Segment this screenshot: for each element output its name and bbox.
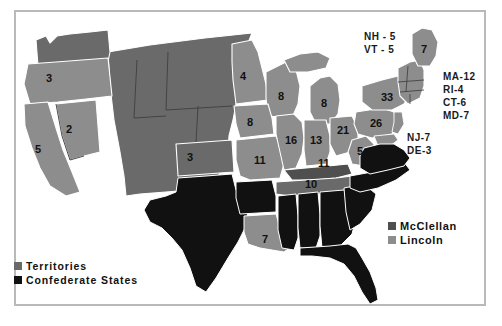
- label-maryland: MD-7: [443, 109, 469, 122]
- lincoln-swatch: [388, 236, 396, 244]
- state-votes-maine: 7: [421, 44, 427, 55]
- territories-label: Territories: [26, 260, 87, 272]
- label-delaware: DE-3: [407, 144, 432, 157]
- status-legend: Territories Confederate States: [14, 260, 138, 288]
- state-votes-illinois: 16: [285, 135, 297, 146]
- state-iowa: [234, 104, 274, 138]
- mcclellan-label: McClellan: [400, 220, 457, 232]
- state-alabama: [298, 192, 320, 248]
- state-votes-ohio: 21: [337, 125, 349, 136]
- state-votes-minnesota: 4: [240, 71, 246, 82]
- state-votes-indiana: 13: [310, 135, 322, 146]
- state-mississippi: [278, 194, 298, 250]
- state-florida: [300, 244, 378, 304]
- state-votes-california: 5: [35, 144, 41, 155]
- state-votes-oregon: 3: [46, 73, 52, 84]
- label-rhode-island: RI-4: [443, 83, 464, 96]
- state-arkansas: [236, 180, 276, 214]
- state-votes-west-virginia: 5: [357, 146, 363, 157]
- legend-item-confederate-states: Confederate States: [14, 274, 138, 286]
- confederate-swatch: [14, 276, 22, 284]
- state-votes-louisiana: 7: [262, 234, 268, 245]
- label-vermont: VT - 5: [364, 43, 394, 56]
- state-votes-michigan: 8: [321, 98, 327, 109]
- electoral-map-figure: 5 3 2 3 4 8 8 8 11 16 13 21 5 11 10 26 3…: [0, 0, 502, 326]
- state-votes-iowa: 8: [247, 117, 253, 128]
- legend-item-mcclellan: McClellan: [388, 220, 457, 232]
- label-new-hampshire: NH - 5: [364, 30, 396, 43]
- state-votes-kansas: 3: [187, 152, 193, 163]
- state-oregon: [24, 58, 112, 104]
- label-new-jersey: NJ-7: [407, 131, 431, 144]
- state-votes-wisconsin: 8: [278, 91, 284, 102]
- lincoln-label: Lincoln: [400, 234, 443, 246]
- state-new-jersey: [392, 112, 404, 134]
- state-votes-kentucky: 11: [318, 158, 330, 169]
- mcclellan-swatch: [388, 222, 396, 230]
- label-connecticut: CT-6: [443, 96, 467, 109]
- legend-item-lincoln: Lincoln: [388, 234, 457, 246]
- state-kansas: [176, 140, 234, 176]
- state-michigan-upper: [284, 52, 330, 72]
- legend-item-territories: Territories: [14, 260, 138, 272]
- state-votes-nevada: 2: [66, 124, 72, 135]
- candidate-legend: McClellan Lincoln: [388, 220, 457, 248]
- territories-swatch: [14, 262, 22, 270]
- state-votes-new-york: 33: [381, 92, 393, 103]
- confederate-label: Confederate States: [26, 274, 138, 286]
- state-votes-missouri: 11: [254, 155, 266, 166]
- state-votes-pennsylvania: 26: [370, 118, 382, 129]
- state-votes-tennessee: 10: [305, 179, 317, 190]
- label-massachusetts: MA-12: [443, 70, 476, 83]
- state-minnesota: [232, 40, 268, 104]
